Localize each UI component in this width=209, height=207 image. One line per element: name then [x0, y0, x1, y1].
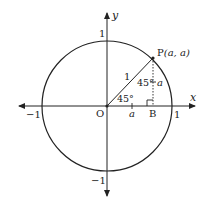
- angle-o-label: 45°: [117, 93, 134, 104]
- point-b-label: B: [149, 108, 156, 119]
- segment-op-label: 1: [124, 71, 130, 82]
- x-tick-neg1: −1: [26, 109, 41, 120]
- segment-pb-a-label: a: [157, 77, 163, 88]
- right-angle-marker: [147, 100, 153, 106]
- x-tick-1: 1: [174, 109, 180, 120]
- y-tick-neg1: −1: [91, 175, 106, 186]
- point-o: [105, 104, 108, 107]
- y-axis-label: y: [111, 9, 119, 22]
- y-tick-1: 1: [99, 28, 105, 39]
- point-p: [151, 56, 154, 59]
- unit-circle-diagram: y x 1 −1 −1 1 O P(a, a) B a 1 45° 45° a: [0, 0, 209, 207]
- angle-p-label: 45°: [137, 77, 154, 88]
- x-axis-label: x: [190, 91, 197, 104]
- point-p-label: P(a, a): [157, 47, 190, 58]
- segment-ob-a-label: a: [129, 108, 135, 119]
- origin-label: O: [96, 108, 104, 119]
